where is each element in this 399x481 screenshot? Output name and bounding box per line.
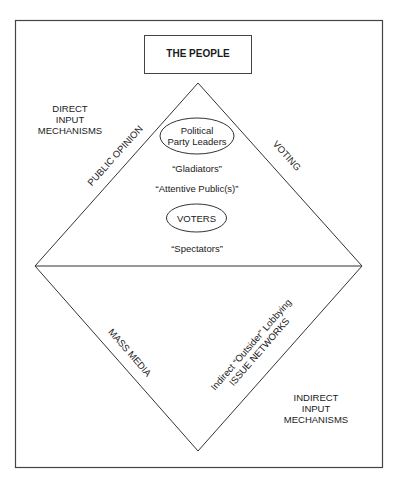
leaders-line-2: Party Leaders <box>160 136 234 147</box>
gladiators-label: “Gladiators” <box>147 163 247 174</box>
indirect-line-2: INPUT <box>276 403 356 414</box>
indirect-input-label: INDIRECT INPUT MECHANISMS <box>276 392 356 425</box>
leaders-line-1: Political <box>160 125 234 136</box>
direct-line-3: MECHANISMS <box>30 125 110 136</box>
indirect-line-3: MECHANISMS <box>276 414 356 425</box>
attentive-public-label: “Attentive Public(s)” <box>137 183 257 194</box>
direct-line-1: DIRECT <box>30 103 110 114</box>
direct-line-2: INPUT <box>30 114 110 125</box>
indirect-line-1: INDIRECT <box>276 392 356 403</box>
spectators-label: “Spectators” <box>147 243 247 254</box>
leaders-label: Political Party Leaders <box>160 125 234 147</box>
diagram: THE PEOPLE DIRECT INPUT MECHANISMS INDIR… <box>0 0 399 481</box>
the-people-label: THE PEOPLE <box>144 48 252 59</box>
direct-input-label: DIRECT INPUT MECHANISMS <box>30 103 110 136</box>
voters-label: VOTERS <box>166 213 227 224</box>
